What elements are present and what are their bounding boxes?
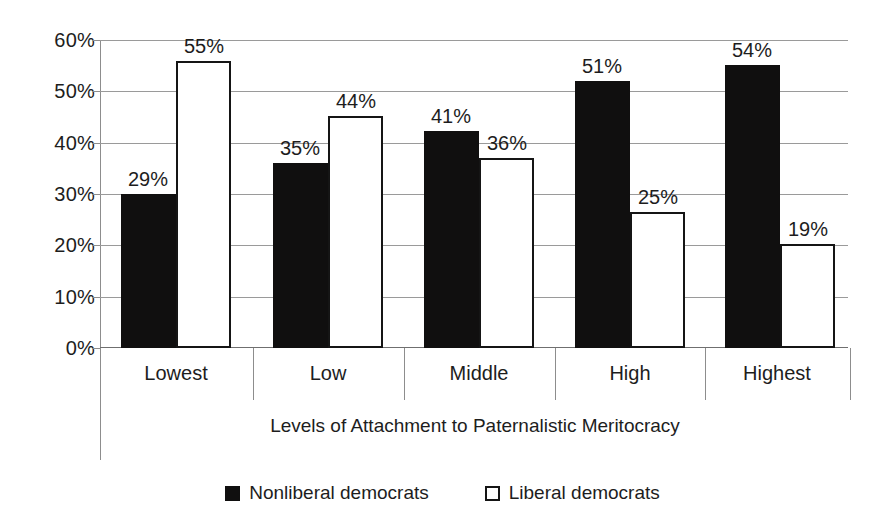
y-tick-mark	[92, 348, 100, 349]
category-label-low: Low	[310, 362, 347, 385]
bar-group-middle: 41% 36%	[404, 40, 555, 348]
bar-group-lowest: 29% 55%	[100, 40, 253, 348]
bar-nonliberal-lowest[interactable]	[121, 194, 176, 348]
bar-liberal-middle[interactable]	[479, 158, 534, 348]
bar-value-label: 55%	[184, 35, 224, 58]
y-tick-mark	[92, 91, 100, 92]
bar-liberal-low[interactable]	[328, 116, 383, 348]
y-tick-label: 50%	[21, 80, 95, 103]
category-separator	[404, 348, 405, 400]
bar-value-label: 41%	[431, 105, 471, 128]
legend-item-nonliberal-democrats[interactable]: Nonliberal democrats	[225, 482, 429, 504]
bar-value-label: 44%	[336, 90, 376, 113]
category-label-lowest: Lowest	[144, 362, 207, 385]
grouped-bar-chart: 60% 50% 40% 30% 20% 10% 0% 29% 55	[0, 0, 885, 516]
y-tick-label: 30%	[21, 183, 95, 206]
category-label-high: High	[609, 362, 650, 385]
filled-square-icon	[225, 486, 240, 501]
category-separator	[850, 348, 851, 400]
bar-value-label: 51%	[582, 55, 622, 78]
category-separator	[705, 348, 706, 400]
plot-area: 29% 55% 35% 44% 41% 36% 51% 25%	[100, 40, 848, 348]
category-separator	[100, 348, 101, 400]
bar-nonliberal-middle[interactable]	[424, 131, 479, 348]
category-separator	[555, 348, 556, 400]
legend-label: Liberal democrats	[509, 482, 660, 504]
y-tick-label: 10%	[21, 285, 95, 308]
y-tick-mark	[92, 40, 100, 41]
category-separator	[253, 348, 254, 400]
bar-group-high: 51% 25%	[555, 40, 705, 348]
y-tick-mark	[92, 245, 100, 246]
bar-liberal-high[interactable]	[630, 212, 685, 348]
y-tick-mark	[92, 297, 100, 298]
x-axis-title: Levels of Attachment to Paternalistic Me…	[100, 415, 850, 437]
bar-value-label: 29%	[128, 168, 168, 191]
bar-value-label: 35%	[280, 137, 320, 160]
bar-nonliberal-high[interactable]	[575, 81, 630, 348]
category-label-highest: Highest	[743, 362, 811, 385]
bar-liberal-lowest[interactable]	[176, 61, 231, 348]
bar-nonliberal-low[interactable]	[273, 163, 328, 348]
y-tick-mark	[92, 194, 100, 195]
chart-legend: Nonliberal democrats Liberal democrats	[0, 478, 885, 508]
y-tick-label: 40%	[21, 131, 95, 154]
bar-liberal-highest[interactable]	[780, 244, 835, 348]
outlined-square-icon	[485, 486, 500, 501]
y-tick-label: 60%	[21, 29, 95, 52]
category-label-middle: Middle	[450, 362, 509, 385]
bar-group-low: 35% 44%	[253, 40, 404, 348]
bar-nonliberal-highest[interactable]	[725, 65, 780, 348]
bar-group-highest: 54% 19%	[705, 40, 855, 348]
legend-label: Nonliberal democrats	[249, 482, 429, 504]
category-axis: Lowest Low Middle High Highest	[100, 348, 850, 460]
bar-value-label: 25%	[638, 186, 678, 209]
y-tick-label: 20%	[21, 234, 95, 257]
bar-value-label: 19%	[788, 218, 828, 241]
bar-value-label: 54%	[732, 39, 772, 62]
y-tick-mark	[92, 143, 100, 144]
legend-item-liberal-democrats[interactable]: Liberal democrats	[485, 482, 660, 504]
y-tick-label: 0%	[21, 337, 95, 360]
bar-value-label: 36%	[487, 132, 527, 155]
